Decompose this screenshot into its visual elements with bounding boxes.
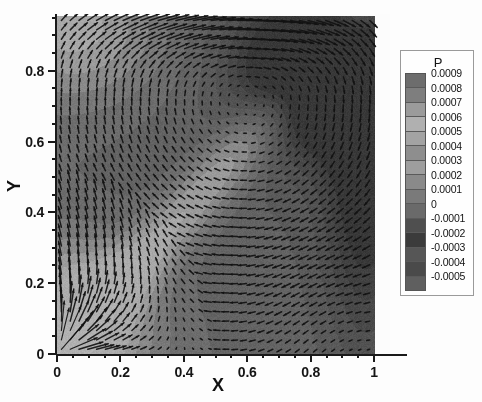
x-minor-tick <box>262 354 264 358</box>
legend-label: 0.0009 <box>431 66 471 81</box>
x-tick-label: 0 <box>53 364 61 380</box>
legend-swatch <box>406 219 425 233</box>
legend-swatch <box>406 262 425 276</box>
y-minor-tick <box>52 17 56 19</box>
y-tick <box>48 282 56 284</box>
y-minor-tick <box>52 176 56 178</box>
y-minor-tick <box>52 194 56 196</box>
legend-label: 0.0008 <box>431 81 471 96</box>
x-tick <box>246 354 248 362</box>
legend-label: -0.0004 <box>431 255 471 270</box>
legend-label: 0.0007 <box>431 95 471 110</box>
legend-label: 0.0006 <box>431 110 471 125</box>
x-tick <box>310 354 312 362</box>
legend-swatch <box>406 132 425 146</box>
legend-label: -0.0001 <box>431 211 471 226</box>
y-minor-tick <box>52 87 56 89</box>
legend-swatch <box>406 74 425 88</box>
legend-label: -0.0003 <box>431 240 471 255</box>
x-tick <box>56 354 58 362</box>
x-minor-tick <box>294 354 296 358</box>
y-minor-tick <box>52 105 56 107</box>
legend-swatch <box>406 117 425 131</box>
x-minor-tick <box>104 354 106 358</box>
y-minor-tick <box>52 318 56 320</box>
y-minor-tick <box>52 158 56 160</box>
y-tick <box>48 353 56 355</box>
y-minor-tick <box>52 300 56 302</box>
x-minor-tick <box>135 354 137 358</box>
y-tick-label: 0.4 <box>25 204 44 220</box>
x-minor-tick <box>199 354 201 358</box>
x-tick <box>119 354 121 362</box>
legend-swatch <box>406 103 425 117</box>
legend-swatch <box>406 146 425 160</box>
y-tick-label: 0.8 <box>25 63 44 79</box>
legend-label: -0.0002 <box>431 226 471 241</box>
y-minor-tick <box>52 52 56 54</box>
legend-label: 0.0002 <box>431 168 471 183</box>
x-tick-label: 0.2 <box>111 364 130 380</box>
legend-label: 0.0005 <box>431 124 471 139</box>
legend-label: 0.0004 <box>431 139 471 154</box>
y-minor-tick <box>52 335 56 337</box>
y-minor-tick <box>52 211 56 213</box>
legend-value-labels: 0.00090.00080.00070.00060.00050.00040.00… <box>426 66 471 284</box>
y-tick-label: 0.2 <box>25 275 44 291</box>
legend-swatch <box>406 190 425 204</box>
x-minor-tick <box>151 354 153 358</box>
y-minor-tick <box>52 247 56 249</box>
legend-swatch <box>406 175 425 189</box>
contour-plot-area <box>57 14 390 354</box>
x-minor-tick <box>230 354 232 358</box>
legend-swatch <box>406 204 425 218</box>
x-minor-tick <box>88 354 90 358</box>
legend-swatch <box>406 277 425 290</box>
x-minor-tick <box>183 354 185 358</box>
y-tick-label: 0.6 <box>25 134 44 150</box>
legend-color-swatches <box>405 73 426 291</box>
legend-swatch <box>406 88 425 102</box>
x-tick <box>373 354 375 362</box>
y-minor-tick <box>52 229 56 231</box>
figure-container: 00.20.40.60.81 00.20.40.60.8 X Y P 0.000… <box>0 0 482 402</box>
legend-swatch <box>406 161 425 175</box>
legend-label: 0 <box>431 197 471 212</box>
pressure-legend: P 0.00090.00080.00070.00060.00050.00040.… <box>400 50 474 296</box>
legend-body: 0.00090.00080.00070.00060.00050.00040.00… <box>405 73 471 291</box>
y-axis-line <box>55 14 57 355</box>
legend-label: 0.0001 <box>431 182 471 197</box>
y-tick <box>48 70 56 72</box>
y-minor-tick <box>52 264 56 266</box>
y-tick <box>48 141 56 143</box>
legend-swatch <box>406 248 425 262</box>
y-minor-tick <box>52 34 56 36</box>
legend-label: -0.0005 <box>431 269 471 284</box>
y-axis-title: Y <box>4 180 25 192</box>
x-minor-tick <box>72 354 74 358</box>
x-minor-tick <box>167 354 169 358</box>
y-tick-label: 0 <box>36 346 44 362</box>
x-minor-tick <box>341 354 343 358</box>
x-tick-label: 0.4 <box>174 364 193 380</box>
pressure-contour-field <box>57 14 390 354</box>
x-minor-tick <box>215 354 217 358</box>
x-tick-label: 0.6 <box>238 364 257 380</box>
legend-label: 0.0003 <box>431 153 471 168</box>
x-tick-label: 0.8 <box>301 364 320 380</box>
x-minor-tick <box>278 354 280 358</box>
x-minor-tick <box>326 354 328 358</box>
x-tick-label: 1 <box>370 364 378 380</box>
y-minor-tick <box>52 123 56 125</box>
legend-swatch <box>406 233 425 247</box>
x-axis-title: X <box>212 375 224 396</box>
x-minor-tick <box>357 354 359 358</box>
